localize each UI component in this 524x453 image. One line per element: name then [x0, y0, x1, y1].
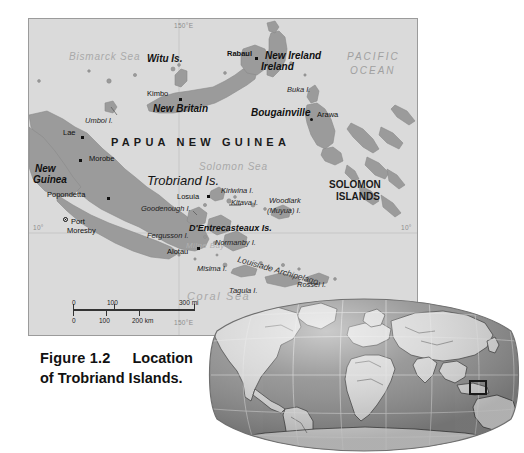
scale-bar-line — [73, 309, 195, 311]
town-label-popondetta: Popondetta — [47, 191, 85, 199]
island-label-muyua-i: (Muyua) I. — [267, 207, 301, 215]
scale-tick-km-200 — [139, 311, 140, 316]
town-dot-morobe — [79, 159, 82, 162]
ocean-label-pacific-line1: PACIFIC — [347, 52, 400, 63]
sea-label-solomon: Solomon Sea — [199, 162, 268, 173]
town-label-alotau: Alotau — [167, 248, 188, 256]
region-label-new-guinea-line1: New — [35, 164, 56, 175]
inset-globe-graphics — [205, 297, 524, 453]
graticule-label-right-parallel: 10° — [401, 225, 412, 232]
capital-symbol-port-moresby — [63, 217, 68, 222]
town-label-losuia: Losuia — [177, 193, 199, 201]
island-label-umboi-i: Umboi I. — [85, 117, 113, 125]
figure-container: 150°E 150°E 10° 10° Bismarck Sea Solomon… — [0, 0, 524, 453]
region-label-new-ireland-line1: New Ireland — [265, 51, 321, 62]
region-label-new-britain: New Britain — [153, 104, 208, 115]
region-label-trobriand-is: Trobriand Is. — [147, 174, 219, 188]
globe-body — [205, 297, 524, 453]
town-dot-lae — [81, 136, 84, 139]
island-label-kitava-i: Kitava I. — [231, 199, 258, 207]
graticule-label-top-meridian: 150°E — [174, 23, 193, 30]
figure-title-line1: Location — [133, 350, 193, 366]
capital-label-port-moresby-line1: Port — [71, 218, 85, 226]
town-dot-kimbo — [179, 98, 182, 101]
scale-tick-km-0 — [73, 311, 74, 316]
scale-label-km-100: 100 — [99, 317, 110, 324]
island-label-normanby-i: Normanby I. — [215, 239, 256, 247]
town-dot-arawa — [310, 118, 313, 121]
main-map: 150°E 150°E 10° 10° Bismarck Sea Solomon… — [28, 18, 418, 336]
sea-label-bismarck: Bismarck Sea — [69, 52, 140, 63]
town-label-kimbo: Kimbo — [147, 90, 168, 98]
island-label-buka-i: Buka I. — [287, 86, 310, 94]
country-label-solomon-islands-line1: SOLOMON — [329, 179, 381, 191]
country-label-solomon-islands-line2: ISLANDS — [336, 191, 380, 203]
town-label-rabaul: Rabaul — [227, 50, 252, 58]
town-label-lae: Lae — [63, 129, 76, 137]
ocean-label-pacific-line2: OCEAN — [350, 66, 396, 77]
scale-label-mi-300: 300 mi — [179, 299, 199, 306]
town-dot-alotau — [197, 247, 200, 250]
island-label-misima-i: Misima I. — [197, 265, 227, 273]
country-label-papua-new-guinea: PAPUA NEW GUINEA — [111, 137, 290, 149]
region-label-new-ireland-line2: Ireland — [261, 62, 294, 73]
town-dot-popondetta — [107, 197, 110, 200]
scale-bar: 0 100 300 mi 0 100 200 km — [73, 300, 201, 326]
town-dot-rabaul — [255, 57, 258, 60]
scale-label-km-0: 0 — [72, 317, 76, 324]
island-label-kiriwina-i: Kiriwina I. — [221, 187, 254, 195]
island-label-woodlark: Woodlark — [269, 197, 301, 205]
island-label-fergusson-i: Fergusson I. — [147, 232, 189, 240]
town-label-arawa: Arawa — [317, 111, 338, 119]
region-label-bougainville: Bougainville — [251, 108, 310, 119]
capital-label-port-moresby-line2: Moresby — [67, 227, 96, 235]
figure-number: Figure 1.2 — [40, 350, 111, 366]
scale-label-mi-0: 0 — [72, 299, 76, 306]
town-label-morobe: Morobe — [89, 155, 114, 163]
island-label-tagula-i: Tagula I. — [229, 287, 258, 295]
region-label-witu-is: Witu Is. — [147, 54, 182, 65]
scale-label-mi-100: 100 — [107, 299, 118, 306]
region-label-dentrecasteaux-is: D'Entrecasteaux Is. — [189, 224, 272, 233]
scale-label-km-200: 200 km — [132, 317, 153, 324]
scale-tick-km-100 — [106, 311, 107, 316]
inset-world-map — [205, 297, 524, 453]
graticule-label-left-parallel: 10° — [33, 225, 44, 232]
region-label-new-guinea-line2: Guinea — [33, 175, 67, 186]
figure-title-line2: of Trobriand Islands. — [40, 370, 183, 386]
town-dot-losuia — [207, 195, 210, 198]
island-label-goodenough-i: Goodenough I. — [141, 205, 191, 213]
